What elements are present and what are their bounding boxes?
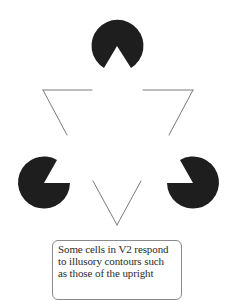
caption-line: as those of the upright bbox=[58, 267, 181, 279]
bottom-right-diagonal bbox=[117, 181, 141, 225]
right-inducer-pacman bbox=[167, 157, 219, 209]
right-upper-diagonal bbox=[169, 90, 193, 135]
bottom-left-diagonal bbox=[93, 181, 117, 225]
left-upper-diagonal bbox=[43, 90, 67, 135]
top-inducer-pacman bbox=[91, 20, 143, 68]
left-inducer-pacman bbox=[18, 157, 70, 209]
caption-line: to illusory contours such bbox=[58, 255, 181, 267]
caption-box: Some cells in V2 respond to illusory con… bbox=[52, 240, 182, 300]
outline-triangle bbox=[43, 90, 193, 225]
caption-line: Some cells in V2 respond bbox=[58, 243, 181, 255]
